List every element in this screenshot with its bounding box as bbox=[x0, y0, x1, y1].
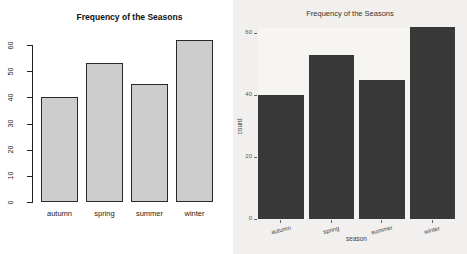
screenshot: Frequency of the Seasons 60 50 40 30 20 … bbox=[0, 0, 467, 254]
y-tick-label: 40 bbox=[235, 91, 252, 97]
x-label-text: autumn bbox=[270, 225, 291, 236]
y-tick-label: 60 bbox=[235, 29, 252, 35]
x-label-text: winter bbox=[424, 225, 441, 235]
y-tick-text: 30 bbox=[8, 120, 15, 128]
y-tick-mark bbox=[254, 157, 257, 158]
bars-area bbox=[258, 33, 455, 219]
y-tick-text: 50 bbox=[8, 67, 15, 75]
bar-autumn bbox=[258, 95, 304, 219]
x-tick-mark bbox=[280, 220, 281, 223]
bar-autumn bbox=[41, 97, 78, 202]
x-label-winter: winter bbox=[176, 209, 213, 218]
y-tick-text: 0 bbox=[8, 200, 15, 204]
bar-spring bbox=[309, 55, 355, 219]
x-label-text: summer bbox=[370, 224, 392, 235]
bar-summer bbox=[131, 84, 168, 202]
y-tick-mark bbox=[27, 202, 32, 203]
x-label-text: spring bbox=[323, 225, 340, 235]
ggplot-bar-chart: Frequency of the Seasons count 60 40 20 … bbox=[233, 0, 467, 254]
x-axis-labels: autumn spring summer winter bbox=[41, 209, 213, 218]
y-tick-mark bbox=[254, 95, 257, 96]
y-tick-mark bbox=[27, 124, 32, 125]
x-tick-mark bbox=[432, 220, 433, 223]
x-axis-title: season bbox=[258, 235, 455, 242]
y-tick-mark bbox=[27, 150, 32, 151]
base-r-bar-chart: Frequency of the Seasons 60 50 40 30 20 … bbox=[0, 0, 233, 254]
y-tick-text: 10 bbox=[8, 172, 15, 180]
y-tick-text: 20 bbox=[8, 146, 15, 154]
y-tick-label: 0 bbox=[235, 215, 252, 221]
y-axis-line bbox=[32, 45, 33, 203]
y-tick-mark bbox=[27, 97, 32, 98]
y-tick-mark bbox=[254, 33, 257, 34]
y-axis-title-text: count bbox=[237, 118, 244, 134]
bar-spring bbox=[86, 63, 123, 202]
chart-title: Frequency of the Seasons bbox=[233, 9, 467, 18]
chart-title: Frequency of the Seasons bbox=[40, 12, 219, 22]
bars-area bbox=[41, 45, 213, 202]
bar-winter bbox=[176, 40, 213, 202]
y-tick-mark bbox=[27, 71, 32, 72]
x-tick-mark bbox=[381, 220, 382, 223]
bar-summer bbox=[359, 80, 405, 220]
y-tick-text: 40 bbox=[8, 93, 15, 101]
y-tick-mark bbox=[254, 219, 257, 220]
y-tick-label: 20 bbox=[235, 153, 252, 159]
x-label-autumn: autumn bbox=[41, 209, 78, 218]
x-label-spring: spring bbox=[86, 209, 123, 218]
y-tick-mark bbox=[27, 176, 32, 177]
x-label-summer: summer bbox=[131, 209, 168, 218]
bar-winter bbox=[410, 27, 456, 219]
x-tick-mark bbox=[331, 220, 332, 223]
y-tick-mark bbox=[27, 45, 32, 46]
y-tick-text: 60 bbox=[8, 41, 15, 49]
